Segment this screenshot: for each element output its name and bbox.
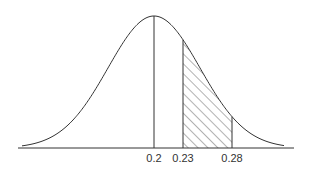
tick-label-mean: 0.2: [146, 152, 161, 164]
shaded-region: [183, 0, 232, 148]
tick-label-lower: 0.23: [172, 152, 193, 164]
normal-curve-figure: 0.2 0.23 0.28: [0, 0, 309, 172]
tick-label-upper: 0.28: [221, 152, 242, 164]
bell-curve: [22, 16, 284, 146]
